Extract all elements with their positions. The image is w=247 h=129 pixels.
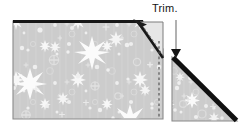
down-arrow-icon (171, 49, 181, 58)
fabric-panel-left (12, 21, 163, 129)
trim-arrow (171, 20, 181, 58)
fabric-triangle-right (172, 57, 237, 124)
diagram-canvas (0, 0, 247, 129)
trim-corner-diagram: Trim. (0, 0, 247, 129)
trim-label: Trim. (152, 2, 178, 15)
